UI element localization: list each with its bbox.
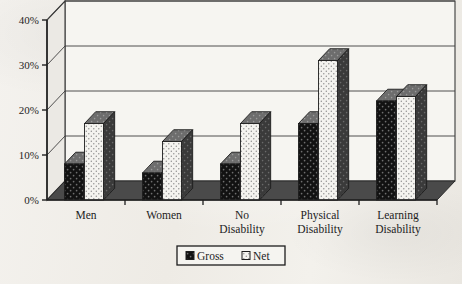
- legend-label: Gross: [197, 250, 224, 262]
- bar-net-physical-disability: [319, 49, 349, 200]
- chart-legend: GrossNet: [177, 246, 285, 265]
- x-category-label: No: [235, 209, 249, 221]
- bar-net-men: [85, 112, 115, 200]
- chart-canvas: 0%10%20%30%40% MenWomenNoDisabilityPhysi…: [0, 0, 462, 284]
- x-axis: MenWomenNoDisabilityPhysicalDisabilityLe…: [47, 200, 437, 236]
- legend-swatch-net: [242, 252, 250, 260]
- y-tick-label: 40%: [19, 14, 39, 26]
- bar-chart-figure: 0%10%20%30%40% MenWomenNoDisabilityPhysi…: [0, 0, 462, 284]
- legend-label: Net: [253, 250, 270, 262]
- bar-net-no-disability: [241, 112, 271, 200]
- legend-swatch-gross: [186, 252, 194, 260]
- legend-item-net[interactable]: Net: [242, 250, 270, 262]
- y-axis: 0%10%20%30%40%: [19, 14, 47, 206]
- x-category-label: Physical: [301, 209, 340, 222]
- y-tick-label: 20%: [19, 104, 39, 116]
- x-category-label: Disability: [375, 223, 421, 236]
- legend-item-gross[interactable]: Gross: [186, 250, 224, 262]
- bar-net-learning-disability: [397, 85, 427, 200]
- x-category-label: Men: [75, 209, 96, 221]
- y-tick-label: 0%: [24, 194, 39, 206]
- y-tick-label: 10%: [19, 149, 39, 161]
- y-tick-label: 30%: [19, 59, 39, 71]
- bar-net-women: [163, 130, 193, 200]
- x-category-label: Learning: [377, 209, 419, 222]
- x-category-label: Women: [146, 209, 182, 221]
- x-category-label: Disability: [219, 223, 265, 236]
- x-category-label: Disability: [297, 223, 343, 236]
